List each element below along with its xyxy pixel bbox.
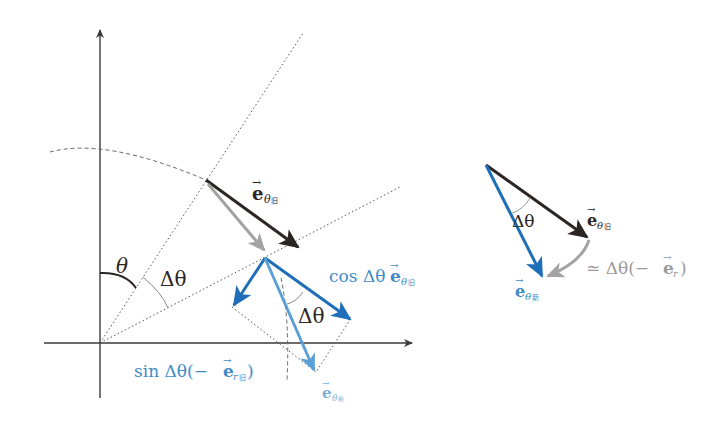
polar-unit-vector-diagram: θ Δθ e → θ 旧 Δθ cos Δθ e → θ 旧 — [0, 0, 724, 424]
dtheta-vector-angle-arc — [287, 292, 303, 304]
svg-text:旧: 旧 — [408, 279, 415, 287]
svg-text:θ: θ — [525, 291, 531, 302]
e-theta-old-label: e → θ 旧 — [252, 176, 278, 206]
svg-text:→: → — [252, 176, 261, 189]
right-e-theta-new-label: e → θ 新 — [515, 275, 539, 302]
svg-text:cos Δθ: cos Δθ — [329, 266, 385, 286]
svg-text:→: → — [322, 378, 330, 388]
svg-text:旧: 旧 — [604, 223, 611, 231]
left-diagram: θ Δθ e → θ 旧 Δθ cos Δθ e → θ 旧 — [44, 30, 415, 403]
svg-text:θ: θ — [401, 276, 407, 287]
theta-label: θ — [116, 254, 128, 278]
svg-text:): ) — [247, 361, 254, 381]
svg-text:新: 新 — [532, 293, 539, 302]
radial-line-theta — [100, 33, 303, 343]
right-approx-term-label: ≃ Δθ(− e → r ) — [586, 252, 687, 279]
circle-arc — [50, 148, 206, 180]
svg-text:→: → — [587, 204, 596, 215]
right-rotation-arrow — [548, 240, 589, 276]
e-theta-new-label: e → θ 新 — [322, 378, 344, 403]
svg-text:→: → — [663, 252, 672, 263]
right-diagram: Δθ e → θ 旧 e → θ 新 ≃ Δθ(− e → r ) — [486, 165, 687, 302]
svg-text:sin Δθ(−: sin Δθ(− — [134, 361, 208, 381]
svg-text:θ: θ — [597, 220, 603, 231]
cos-term-label: cos Δθ e → θ 旧 — [329, 260, 415, 287]
svg-text:≃ Δθ(−: ≃ Δθ(− — [586, 258, 649, 278]
dtheta-label-vectors: Δθ — [298, 304, 324, 328]
svg-text:旧: 旧 — [271, 197, 278, 205]
svg-text:→: → — [515, 275, 524, 286]
svg-text:旧: 旧 — [239, 374, 246, 382]
svg-text:→: → — [223, 355, 232, 366]
svg-text:→: → — [390, 260, 399, 271]
svg-text:r: r — [673, 268, 679, 279]
svg-text:θ: θ — [264, 193, 271, 206]
svg-text:新: 新 — [338, 395, 344, 403]
sin-term-label: sin Δθ(− e → r 旧 ) — [134, 355, 254, 382]
dtheta-label-origin: Δθ — [160, 267, 186, 291]
svg-text:): ) — [680, 258, 687, 278]
right-e-theta-old-label: e → θ 旧 — [587, 204, 611, 231]
right-dtheta-label: Δθ — [512, 211, 535, 231]
right-e-theta-old-vector — [486, 165, 587, 237]
